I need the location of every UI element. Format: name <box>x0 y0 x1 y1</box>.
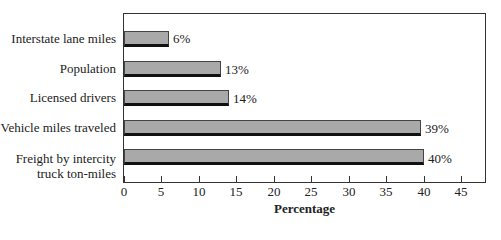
category-label: Licensed drivers <box>30 90 116 105</box>
x-tick-label: 5 <box>146 184 176 200</box>
x-tick <box>161 176 162 182</box>
bar-interstate-lane-miles <box>124 31 169 47</box>
bar-vehicle-miles-traveled <box>124 120 421 136</box>
category-label: Freight by intercity truck ton-miles <box>16 151 116 181</box>
bar-value-label: 39% <box>425 121 449 137</box>
x-tick <box>461 176 462 182</box>
bar-value-label: 13% <box>225 62 249 78</box>
x-tick <box>199 176 200 182</box>
x-tick <box>311 176 312 182</box>
bar-freight-truck-ton-miles <box>124 149 424 165</box>
x-tick-label: 30 <box>334 184 364 200</box>
category-label: Vehicle miles traveled <box>0 120 116 135</box>
x-tick-label: 35 <box>371 184 401 200</box>
bar-licensed-drivers <box>124 90 229 106</box>
category-label-line: Freight by intercity <box>16 151 116 166</box>
x-tick-label: 15 <box>221 184 251 200</box>
x-tick-label: 45 <box>446 184 476 200</box>
x-tick <box>386 176 387 182</box>
bar-value-label: 14% <box>233 91 257 107</box>
x-tick-label: 40 <box>409 184 439 200</box>
x-tick <box>349 176 350 182</box>
bar-population <box>124 61 221 77</box>
x-tick <box>236 176 237 182</box>
x-tick <box>424 176 425 182</box>
x-tick <box>124 176 125 182</box>
x-axis-title: Percentage <box>123 201 486 217</box>
category-label-line: truck ton-miles <box>16 166 116 181</box>
category-label: Population <box>60 61 116 76</box>
x-tick <box>274 176 275 182</box>
category-label: Interstate lane miles <box>11 31 116 46</box>
x-tick-label: 10 <box>184 184 214 200</box>
x-tick-label: 25 <box>296 184 326 200</box>
x-tick-label: 20 <box>259 184 289 200</box>
x-tick-label: 0 <box>109 184 139 200</box>
bar-value-label: 40% <box>428 151 452 167</box>
bar-value-label: 6% <box>173 31 190 47</box>
